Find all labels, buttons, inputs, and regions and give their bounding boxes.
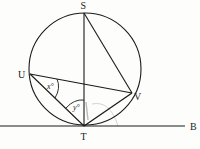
angle-label-y: y° bbox=[72, 103, 81, 112]
point-label-b: B bbox=[190, 121, 197, 132]
segment-tv bbox=[84, 93, 132, 126]
point-label-s: S bbox=[81, 0, 87, 11]
faint-mark bbox=[86, 102, 88, 120]
angle-arc-x bbox=[55, 79, 59, 98]
circle bbox=[29, 13, 141, 125]
faint-mark bbox=[92, 103, 118, 126]
segment-sv bbox=[84, 13, 132, 93]
point-label-v: V bbox=[134, 91, 142, 102]
angle-label-x: x° bbox=[46, 82, 55, 91]
point-label-t: T bbox=[81, 131, 87, 142]
circle-diagram: S T U V B x° y° bbox=[0, 0, 200, 149]
segment-uv bbox=[30, 74, 132, 93]
diagram-svg: S T U V B x° y° bbox=[0, 0, 200, 149]
point-label-u: U bbox=[18, 69, 26, 80]
